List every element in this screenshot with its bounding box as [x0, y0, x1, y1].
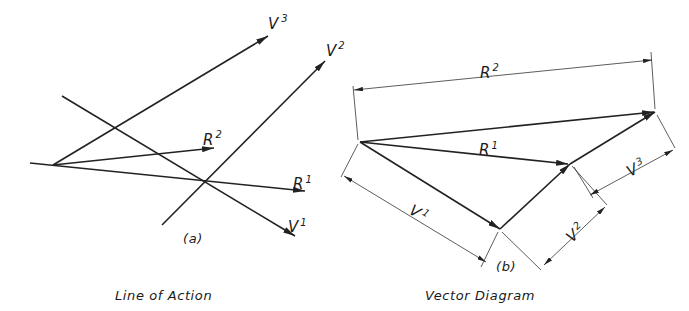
v3-extension-bottom [574, 167, 593, 198]
r2-extension-left [353, 86, 358, 140]
label-a-r1: R1 [293, 174, 312, 193]
r1-line-of-action [30, 163, 305, 191]
label-b-v3: V3 [623, 155, 648, 181]
panel-a-caption: Line of Action [115, 288, 212, 303]
label-a-v1: V1 [288, 217, 307, 236]
label-a-r2: R2 [203, 129, 222, 149]
label-a-v2: V2 [326, 40, 345, 60]
vector-figure: V3 V2 R2 R1 V1 (a) Line of Action [0, 0, 689, 311]
label-b-r2: R2 [480, 62, 499, 82]
panel-b-vector-diagram: R2 R1 V1 V2 V3 (b) Vector Diagram [341, 52, 675, 303]
r2-extension-right [651, 52, 655, 109]
r2-vector [360, 112, 654, 142]
v2-vector [500, 164, 570, 229]
v3-line-of-action [53, 36, 268, 165]
v1-line-of-action [62, 96, 295, 236]
panel-a-line-of-action: V3 V2 R2 R1 V1 (a) Line of Action [30, 13, 345, 303]
label-a-v3: V3 [268, 13, 288, 33]
r2-dimension-line [354, 60, 652, 90]
label-b-v1: V1 [406, 200, 432, 226]
panel-b-caption: Vector Diagram [425, 288, 535, 303]
label-b-v2: V2 [562, 219, 589, 246]
panel-a-tag: (a) [183, 231, 203, 246]
v1-extension-top [341, 144, 358, 177]
panel-b-tag: (b) [496, 259, 516, 274]
v3-extension-top [657, 115, 675, 148]
